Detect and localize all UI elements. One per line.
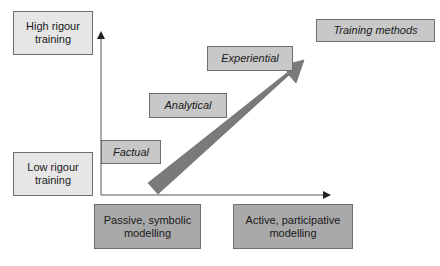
passive-symbolic-modelling-label: Passive, symbolic modelling	[94, 204, 201, 249]
stage-analytical: Analytical	[149, 93, 227, 118]
stage-experiential: Experiential	[207, 46, 293, 71]
stage-experiential-text: Experiential	[221, 52, 278, 65]
stage-factual: Factual	[101, 140, 161, 164]
passive-text: Passive, symbolic modelling	[102, 214, 194, 240]
low-rigour-training-label: Low rigour training	[13, 152, 93, 196]
stage-analytical-text: Analytical	[164, 99, 211, 112]
high-rigour-training-label: High rigour training	[13, 11, 93, 55]
progress-arrow	[148, 60, 304, 194]
legend-title-text: Training methods	[333, 24, 417, 37]
active-participative-modelling-label: Active, participative modelling	[233, 204, 353, 249]
low-rigour-text: Low rigour training	[23, 161, 83, 187]
active-text: Active, participative modelling	[243, 214, 343, 240]
stage-factual-text: Factual	[113, 146, 149, 159]
legend-training-methods: Training methods	[316, 19, 435, 42]
high-rigour-text: High rigour training	[23, 20, 83, 46]
